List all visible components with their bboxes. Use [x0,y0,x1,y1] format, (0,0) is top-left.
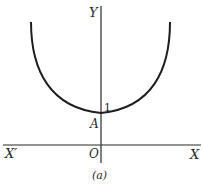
x-axis-label: X [190,148,199,161]
diagram-canvas [0,0,203,192]
origin-label: O [89,148,99,160]
figure-caption: (a) [92,170,107,181]
x-neg-axis-label: X′ [5,147,17,160]
y-axis-label: Y [89,6,98,19]
value-one-label: 1 [104,102,111,113]
point-a-label: A [90,118,99,130]
